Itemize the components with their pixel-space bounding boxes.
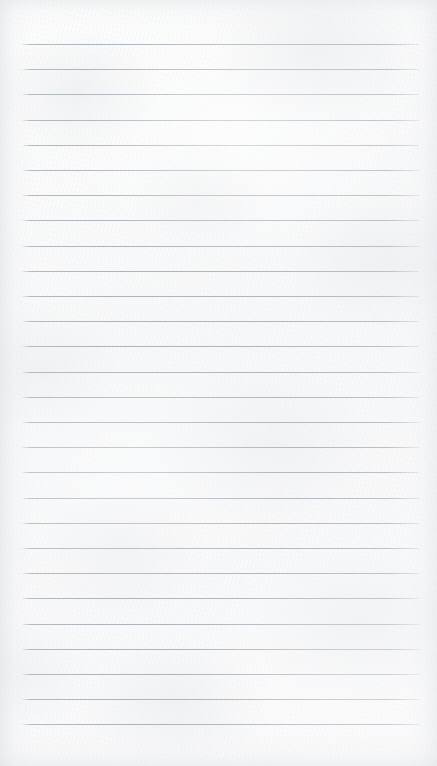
writing-line[interactable]	[22, 324, 419, 346]
writing-line[interactable]	[22, 677, 419, 699]
writing-line[interactable]	[22, 299, 419, 321]
writing-line[interactable]	[22, 576, 419, 598]
writing-line[interactable]	[22, 475, 419, 497]
writing-line[interactable]	[22, 425, 419, 447]
rule-line	[22, 498, 419, 499]
rule-line	[22, 624, 419, 625]
writing-line[interactable]	[22, 400, 419, 422]
writing-line[interactable]	[22, 450, 419, 472]
rule-line	[22, 246, 419, 247]
writing-line[interactable]	[22, 526, 419, 548]
writing-line[interactable]	[22, 601, 419, 623]
writing-line[interactable]	[22, 375, 419, 397]
writing-line[interactable]	[22, 349, 419, 371]
writing-line[interactable]	[22, 72, 419, 94]
writing-line[interactable]	[22, 223, 419, 245]
writing-line[interactable]	[22, 123, 419, 145]
writing-line[interactable]	[22, 274, 419, 296]
rule-line	[22, 120, 419, 121]
rule-line	[22, 372, 419, 373]
writing-line[interactable]	[22, 47, 419, 69]
writing-line[interactable]	[22, 501, 419, 523]
notebook-page	[0, 0, 437, 766]
writing-line[interactable]	[22, 702, 419, 724]
writing-line[interactable]	[22, 249, 419, 271]
writing-line[interactable]	[22, 173, 419, 195]
writing-line[interactable]	[22, 652, 419, 674]
writing-line[interactable]	[22, 627, 419, 649]
writing-line[interactable]	[22, 198, 419, 220]
writing-line[interactable]	[22, 148, 419, 170]
writing-line[interactable]	[22, 551, 419, 573]
writing-line[interactable]	[22, 22, 419, 44]
writing-line[interactable]	[22, 97, 419, 119]
